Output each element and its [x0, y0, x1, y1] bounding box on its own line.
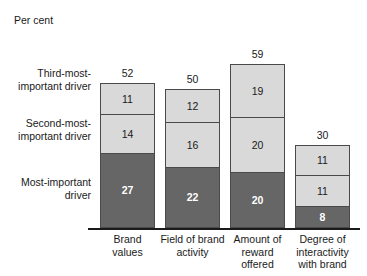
bar-total-label: 50 — [165, 73, 220, 85]
bar-total-label: 52 — [100, 67, 155, 79]
bar-segment: 19 — [230, 64, 285, 117]
bar-segment: 14 — [100, 114, 155, 153]
x-axis-category-label: Degree of interactivity with brand — [284, 233, 362, 271]
bar-segment: 20 — [230, 117, 285, 173]
chart-axis-title: Per cent — [14, 14, 53, 26]
plot-area: 5211142750121622591920203011118 — [100, 28, 352, 228]
series-label-second-most-important-driver: Second-most- important driver — [0, 117, 91, 142]
x-axis-line — [88, 228, 360, 230]
bar-group: 3011118 — [295, 145, 350, 228]
series-label-third-most-important-driver: Third-most- important driver — [0, 67, 91, 92]
bar-segment: 16 — [165, 122, 220, 166]
bar-segment: 11 — [295, 175, 350, 206]
series-label-most-important-driver: Most-important driver — [0, 176, 91, 201]
bar-segment: 12 — [165, 89, 220, 122]
bar-segment: 8 — [295, 206, 350, 228]
stacked-bar-chart: Per cent Third-most- important driver Se… — [0, 0, 367, 276]
bar-group: 52111427 — [100, 83, 155, 228]
bar-total-label: 30 — [295, 129, 350, 141]
bar-segment: 11 — [295, 145, 350, 176]
bar-segment: 27 — [100, 153, 155, 228]
bar-total-label: 59 — [230, 48, 285, 60]
bar-segment: 11 — [100, 83, 155, 114]
bar-group: 59192020 — [230, 64, 285, 228]
bar-segment: 22 — [165, 167, 220, 228]
bar-group: 50121622 — [165, 89, 220, 228]
bar-segment: 20 — [230, 172, 285, 228]
